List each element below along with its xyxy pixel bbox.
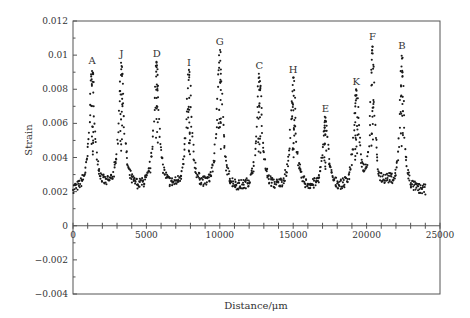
data-point (157, 109, 159, 111)
data-point (220, 68, 222, 70)
data-point (407, 177, 409, 179)
data-point (402, 132, 404, 134)
data-point (268, 182, 270, 184)
data-point (193, 150, 195, 152)
x-tick-label: 10000 (205, 230, 234, 240)
data-point (109, 179, 111, 181)
data-point (254, 154, 256, 156)
data-point (405, 156, 407, 158)
data-point (361, 159, 363, 161)
data-point (112, 178, 114, 180)
data-point (232, 180, 234, 182)
data-point (386, 173, 388, 175)
data-point (277, 181, 279, 183)
data-point (291, 102, 293, 104)
data-point (373, 66, 375, 68)
data-point (354, 121, 356, 123)
data-point (258, 143, 260, 145)
data-point (353, 129, 355, 131)
data-point (123, 115, 125, 117)
data-point (312, 184, 314, 186)
data-point (289, 148, 291, 150)
data-point (156, 89, 158, 91)
data-point (118, 110, 120, 112)
data-point (264, 158, 266, 160)
data-point (320, 166, 322, 168)
data-point (320, 160, 322, 162)
data-point (92, 126, 94, 128)
data-point (188, 106, 190, 108)
data-point (118, 123, 120, 125)
data-point (366, 155, 368, 157)
data-point (121, 138, 123, 140)
data-point (219, 79, 221, 81)
data-point (258, 111, 260, 113)
data-point (220, 99, 222, 101)
data-point (368, 145, 370, 147)
data-point (156, 105, 158, 107)
data-point (136, 178, 138, 180)
data-point (370, 145, 372, 147)
data-point (274, 187, 276, 189)
data-point (188, 109, 190, 111)
data-point (387, 175, 389, 177)
data-point (93, 123, 95, 125)
data-point (408, 174, 410, 176)
data-point (125, 143, 127, 145)
data-points (72, 46, 426, 196)
data-point (366, 164, 368, 166)
data-point (192, 144, 194, 146)
data-point (395, 174, 397, 176)
data-point (342, 181, 344, 183)
data-point (356, 125, 358, 127)
data-point (258, 105, 260, 107)
data-point (225, 169, 227, 171)
data-point (273, 179, 275, 181)
y-tick-label: 0.01 (48, 50, 68, 60)
data-point (220, 51, 222, 53)
data-point (225, 156, 227, 158)
data-point (72, 192, 74, 194)
data-point (372, 138, 374, 140)
data-point (91, 81, 93, 83)
data-point (360, 153, 362, 155)
data-point (215, 137, 217, 139)
y-tick-label: −0.004 (35, 289, 69, 299)
data-point (324, 124, 326, 126)
data-point (223, 147, 225, 149)
data-point (133, 177, 135, 179)
data-point (372, 103, 374, 105)
data-point (293, 125, 295, 127)
data-point (262, 142, 264, 144)
data-point (186, 98, 188, 100)
data-point (359, 144, 361, 146)
data-point (171, 184, 173, 186)
strain-distance-chart: −0.004−0.00200.0020.0040.0060.0080.010.0… (0, 0, 470, 318)
data-point (137, 183, 139, 185)
data-point (420, 184, 422, 186)
data-point (284, 169, 286, 171)
data-point (172, 181, 174, 183)
data-point (227, 167, 229, 169)
data-point (325, 150, 327, 152)
data-point (401, 71, 403, 73)
data-point (99, 178, 101, 180)
data-point (190, 116, 192, 118)
data-point (372, 107, 374, 109)
data-point (313, 187, 315, 189)
data-point (268, 178, 270, 180)
data-point (183, 163, 185, 165)
data-point (115, 153, 117, 155)
data-point (98, 173, 100, 175)
peak-label-g: G (216, 36, 224, 47)
data-point (340, 178, 342, 180)
data-point (89, 93, 91, 95)
data-point (159, 143, 161, 145)
data-point (351, 164, 353, 166)
data-point (157, 142, 159, 144)
data-point (291, 117, 293, 119)
data-point (187, 127, 189, 129)
data-point (87, 138, 89, 140)
data-point (355, 139, 357, 141)
data-point (394, 177, 396, 179)
